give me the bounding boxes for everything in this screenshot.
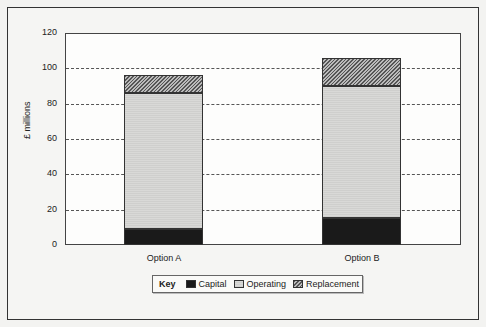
y-tick-label: 60 xyxy=(27,133,57,143)
bar-segment-operating xyxy=(322,86,401,219)
bar-segment-replacement xyxy=(124,75,203,93)
replacement-swatch-icon xyxy=(293,280,303,288)
bar-segment-operating xyxy=(124,93,203,229)
operating-swatch-icon xyxy=(234,280,244,288)
capital-swatch-icon xyxy=(186,280,196,288)
legend-item-capital: Capital xyxy=(186,279,227,289)
y-tick-label: 0 xyxy=(27,239,57,249)
legend: Key Capital Operating Replacement xyxy=(152,275,363,293)
y-tick-label: 40 xyxy=(27,168,57,178)
legend-item-operating: Operating xyxy=(234,279,287,289)
legend-item-replacement: Replacement xyxy=(293,279,359,289)
y-tick-label: 20 xyxy=(27,204,57,214)
legend-title: Key xyxy=(159,279,176,289)
x-category-label: Option B xyxy=(322,253,402,263)
x-category-label: Option A xyxy=(124,253,204,263)
bar-option-a xyxy=(124,75,203,245)
plot-area xyxy=(65,33,461,245)
bar-segment-capital xyxy=(322,218,401,245)
y-tick-label: 80 xyxy=(27,98,57,108)
bar-segment-capital xyxy=(124,229,203,245)
y-tick-label: 100 xyxy=(27,62,57,72)
y-tick-label: 120 xyxy=(27,27,57,37)
bar-segment-replacement xyxy=(322,58,401,86)
bar-option-b xyxy=(322,58,401,245)
